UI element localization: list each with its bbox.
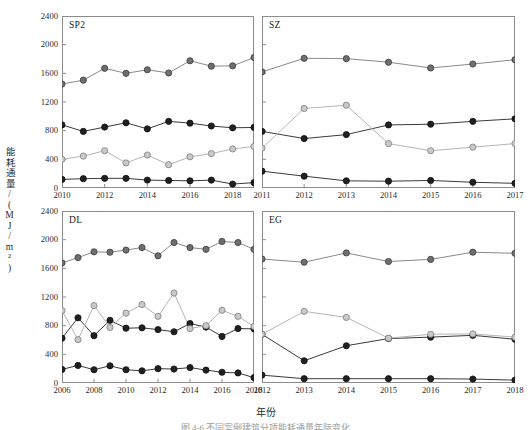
data-point-marker [75, 254, 81, 260]
data-point-marker [251, 143, 254, 149]
data-point-marker [470, 118, 476, 124]
data-point-marker [102, 175, 108, 181]
data-point-marker [123, 120, 129, 126]
data-point-marker [187, 364, 193, 370]
data-point-marker [385, 122, 391, 128]
x-tick-label: 2010 [112, 385, 140, 395]
data-point-marker [262, 168, 265, 174]
data-point-marker [301, 135, 307, 141]
y-axis-title: 能耗通量/(MJ/m²) [0, 145, 18, 275]
plot-area [262, 16, 515, 188]
data-point-marker [123, 367, 129, 373]
data-point-marker [301, 173, 307, 179]
data-point-marker [62, 81, 65, 87]
data-point-marker [385, 140, 391, 146]
data-point-marker [301, 376, 307, 382]
plot-area [62, 16, 254, 188]
x-tick-label: 2016 [417, 385, 445, 395]
data-point-marker [91, 333, 97, 339]
data-point-marker [102, 65, 108, 71]
data-point-marker [512, 377, 515, 383]
data-point-marker [166, 177, 172, 183]
x-tick-label: 2017 [501, 190, 529, 200]
data-point-marker [428, 331, 434, 337]
panel-sp2: SP20400800120016002000240020102012201420… [62, 16, 254, 188]
data-point-marker [123, 175, 129, 181]
data-point-marker [230, 146, 236, 152]
data-point-marker [80, 77, 86, 83]
data-point-marker [512, 140, 515, 146]
data-point-marker [512, 250, 515, 256]
y-tick-label: 1200 [28, 97, 58, 107]
data-point-marker [343, 250, 349, 256]
x-tick-label: 2016 [176, 190, 204, 200]
x-tick-label: 2012 [248, 385, 276, 395]
data-point-marker [235, 370, 241, 376]
data-point-marker [512, 334, 515, 340]
data-point-marker [428, 148, 434, 154]
data-point-marker [251, 375, 254, 381]
data-point-marker [80, 176, 86, 182]
data-point-marker [230, 181, 236, 187]
x-tick-label: 2016 [208, 385, 236, 395]
y-tick-label: 400 [28, 154, 58, 164]
data-point-marker [91, 249, 97, 255]
panel-label-sp2: SP2 [69, 20, 85, 30]
data-point-marker [139, 325, 145, 331]
data-point-marker [155, 253, 161, 259]
data-point-marker [123, 70, 129, 76]
figure-caption: 图 4-6 不同案例建筑分项能耗通量年际变化 [0, 421, 531, 430]
data-point-marker [171, 366, 177, 372]
data-point-marker [470, 144, 476, 150]
data-point-marker [343, 102, 349, 108]
data-point-marker [171, 290, 177, 296]
data-point-marker [123, 310, 129, 316]
data-point-marker [62, 156, 65, 162]
data-point-marker [144, 126, 150, 132]
panel-frame [263, 212, 515, 383]
x-tick-label: 2015 [417, 190, 445, 200]
data-point-marker [166, 70, 172, 76]
data-point-marker [512, 180, 515, 186]
data-point-marker [230, 63, 236, 69]
data-point-marker [123, 325, 129, 331]
data-point-marker [251, 124, 254, 130]
data-point-marker [91, 367, 97, 373]
data-point-marker [62, 366, 65, 372]
y-tick-label: 2400 [28, 206, 58, 216]
data-point-marker [75, 337, 81, 343]
data-point-marker [139, 301, 145, 307]
data-point-marker [144, 152, 150, 158]
x-tick-label: 2012 [91, 190, 119, 200]
data-point-marker [187, 244, 193, 250]
x-tick-label: 2014 [332, 385, 360, 395]
data-point-marker [262, 128, 265, 134]
data-point-marker [385, 376, 391, 382]
data-point-marker [144, 177, 150, 183]
data-point-marker [107, 324, 113, 330]
data-point-marker [343, 178, 349, 184]
y-tick-label: 2400 [28, 11, 58, 21]
data-point-marker [512, 116, 515, 122]
data-point-marker [512, 57, 515, 63]
plot-area [62, 211, 254, 383]
x-tick-label: 2013 [332, 190, 360, 200]
data-point-marker [262, 331, 265, 337]
data-point-marker [235, 239, 241, 245]
data-point-marker [470, 249, 476, 255]
data-point-marker [208, 151, 214, 157]
data-point-marker [230, 125, 236, 131]
data-point-marker [62, 176, 65, 182]
data-point-marker [428, 65, 434, 71]
x-tick-label: 2014 [375, 190, 403, 200]
data-point-marker [91, 303, 97, 309]
data-point-marker [107, 363, 113, 369]
data-point-marker [251, 54, 254, 60]
x-tick-label: 2008 [80, 385, 108, 395]
data-point-marker [187, 325, 193, 331]
data-point-marker [187, 120, 193, 126]
data-point-marker [301, 105, 307, 111]
data-point-marker [219, 307, 225, 313]
plot-area [262, 211, 515, 383]
data-point-marker [123, 160, 129, 166]
